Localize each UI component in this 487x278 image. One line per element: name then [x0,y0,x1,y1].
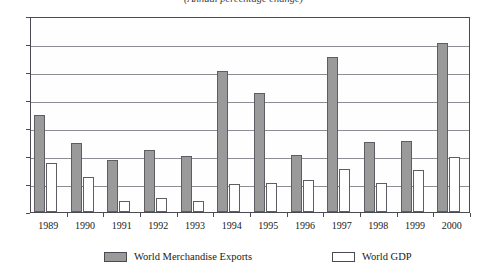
x-axis-tick-mark [177,213,178,217]
y-axis-tick-mark [26,129,30,130]
plot-area [30,17,470,213]
bar-gdp [156,198,167,212]
bar-exports [34,115,45,212]
legend-label: World Merchandise Exports [134,251,252,263]
y-axis-tick-mark [26,101,30,102]
bar-group [31,18,68,212]
bar-gdp [46,163,57,212]
bar-exports [291,155,302,212]
bar-gdp [83,177,94,212]
x-axis-tick-mark [360,213,361,217]
x-axis-tick-mark [433,213,434,217]
bar-gdp [339,169,350,212]
y-axis-tick-mark [26,157,30,158]
bar-exports [217,71,228,212]
bars-layer [31,18,469,212]
y-axis-tick-mark [26,185,30,186]
bar-exports [254,93,265,212]
x-axis-tick-label: 2000 [430,220,474,231]
bar-group [434,18,471,212]
bar-group [68,18,105,212]
bar-group [178,18,215,212]
bar-exports [107,160,118,212]
white-swatch-icon [332,252,355,262]
bar-exports [144,150,155,212]
bar-gdp [193,201,204,212]
bar-exports [401,141,412,212]
bar-exports [327,57,338,212]
bar-gdp [229,184,240,212]
bar-gdp [376,183,387,212]
legend-item-world-gdp: World GDP [332,250,412,264]
chart-legend: World Merchandise Exports World GDP [0,250,487,266]
bar-gdp [449,157,460,212]
bar-gdp [266,183,277,212]
bar-exports [181,156,192,212]
gray-swatch-icon [104,252,127,262]
bar-gdp [119,201,130,212]
chart-plot-wrapper: 02468101214 1989199019911992199319941995… [0,0,487,240]
bar-group [104,18,141,212]
bar-group [141,18,178,212]
bar-gdp [303,180,314,212]
bar-group [398,18,435,212]
x-axis-tick-mark [140,213,141,217]
bar-exports [364,142,375,212]
y-axis-tick-mark [26,17,30,18]
bar-group [214,18,251,212]
legend-item-world-merchandise-exports: World Merchandise Exports [104,250,252,264]
x-axis-tick-mark [470,213,471,217]
bar-group [324,18,361,212]
x-axis-tick-mark [103,213,104,217]
bar-group [288,18,325,212]
bar-group [361,18,398,212]
legend-label: World GDP [362,251,412,263]
x-axis-tick-mark [287,213,288,217]
x-axis-tick-mark [323,213,324,217]
y-axis-tick-mark [26,213,30,214]
x-axis-tick-mark [67,213,68,217]
x-axis-tick-mark [397,213,398,217]
y-axis-tick-mark [26,73,30,74]
y-axis-tick-mark [26,45,30,46]
bar-exports [437,43,448,212]
x-axis-tick-mark [213,213,214,217]
bar-exports [71,143,82,212]
bar-gdp [413,170,424,212]
bar-group [251,18,288,212]
x-axis-tick-mark [250,213,251,217]
